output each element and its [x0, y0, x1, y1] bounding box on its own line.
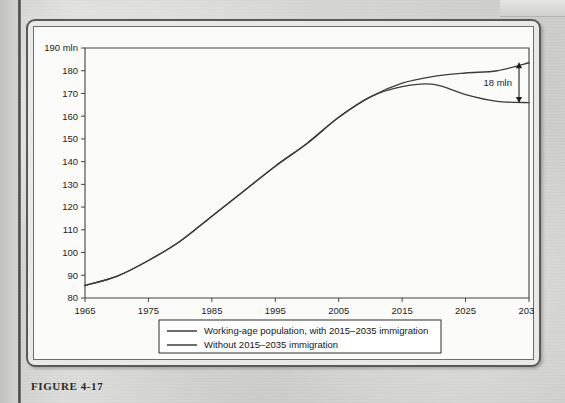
y-tick-label: 180 — [62, 65, 78, 76]
x-tick-label: 2025 — [455, 305, 476, 316]
plot-border — [85, 48, 529, 298]
x-tick-label: 1965 — [74, 305, 95, 316]
y-tick-label: 130 — [62, 179, 78, 190]
page-gutter-shadow — [0, 0, 18, 403]
annotation-arrowhead-bottom — [516, 97, 522, 103]
y-tick-label: 140 — [62, 156, 78, 167]
x-tick-label: 2015 — [392, 305, 413, 316]
chart-annotations: 18 mln — [483, 63, 522, 103]
legend-label-1: Without 2015–2035 immigration — [204, 339, 338, 350]
chart-series-group — [85, 63, 529, 286]
series-line-0 — [85, 63, 529, 286]
page-gutter-line — [18, 0, 21, 403]
chart-legend: Working-age population, with 2015–2035 i… — [159, 320, 441, 353]
x-tick-label: 2005 — [328, 305, 349, 316]
y-tick-label: 90 — [67, 270, 78, 281]
y-tick-label: 110 — [63, 224, 78, 235]
y-tick-label: 120 — [62, 201, 78, 212]
x-tick-label: 2035 — [518, 305, 534, 316]
x-tick-label: 1985 — [201, 305, 222, 316]
chart-axes: 8090100110120130140150160170180190 mln19… — [44, 42, 534, 316]
y-tick-label: 160 — [62, 111, 78, 122]
y-axis-unit-label: 190 mln — [44, 42, 78, 53]
series-line-1 — [85, 84, 529, 286]
y-tick-label: 170 — [62, 88, 78, 99]
line-chart: 8090100110120130140150160170180190 mln19… — [33, 26, 534, 360]
y-tick-label: 150 — [62, 133, 78, 144]
y-tick-label: 100 — [62, 247, 78, 258]
page-edge-top-right — [500, 0, 565, 17]
x-tick-label: 1995 — [265, 305, 286, 316]
legend-label-0: Working-age population, with 2015–2035 i… — [204, 325, 428, 336]
y-tick-label: 80 — [67, 292, 78, 303]
figure-caption: FIGURE 4-17 — [31, 380, 103, 392]
figure-page: 8090100110120130140150160170180190 mln19… — [0, 0, 565, 403]
annotation-label: 18 mln — [483, 77, 512, 88]
x-tick-label: 1975 — [138, 305, 159, 316]
